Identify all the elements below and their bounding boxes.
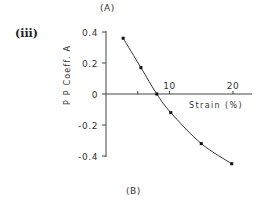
line-chart: 0.40.20-0.2-0.41020Strain (%)P P Coeff. … — [0, 0, 266, 201]
y-tick-label: -0.4 — [78, 152, 98, 162]
data-point-marker — [200, 142, 203, 145]
data-point-marker — [230, 162, 233, 165]
data-point-marker — [169, 111, 172, 114]
x-tick-label: 10 — [163, 81, 176, 91]
y-tick-label: 0.4 — [82, 28, 98, 38]
data-point-marker — [139, 66, 142, 69]
y-axis-label: P P Coeff. A — [63, 45, 72, 105]
data-point-marker — [122, 37, 125, 40]
data-point-marker — [155, 93, 158, 96]
x-axis-label: Strain (%) — [189, 101, 243, 110]
y-tick-label: -0.2 — [78, 121, 98, 131]
x-tick-label: 20 — [227, 81, 240, 91]
y-tick-label: 0.2 — [82, 59, 98, 69]
y-tick-label: 0 — [92, 90, 98, 100]
axes — [102, 31, 252, 157]
